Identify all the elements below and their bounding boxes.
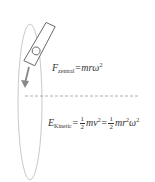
energy-subscript: Kinetic	[54, 123, 72, 129]
force-subscript: zentral	[58, 68, 74, 74]
term-mr: mr	[115, 117, 126, 128]
fraction-half: 12	[108, 116, 114, 131]
rotating-object	[24, 21, 55, 67]
force-equation: Fzentral=mrω2	[52, 62, 102, 74]
force-exponent: 2	[99, 62, 102, 68]
rotation-diagram	[0, 0, 155, 182]
fraction-denominator: 2	[108, 124, 114, 131]
term-mv: mv	[86, 117, 98, 128]
energy-equation: EKinetic=12mv2=12mr2ω2	[48, 116, 139, 131]
equals-sign: =	[101, 117, 108, 128]
force-rhs: mrω	[81, 62, 99, 73]
equals-sign: =	[72, 117, 79, 128]
fraction-denominator: 2	[80, 124, 86, 131]
exponent: 2	[136, 117, 139, 123]
force-arrow-icon	[21, 67, 29, 88]
fraction-half: 12	[80, 116, 86, 131]
